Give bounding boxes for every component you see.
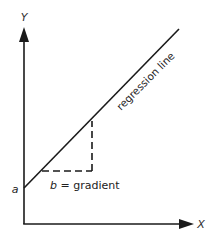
regression-line: [24, 29, 179, 188]
y-axis-label: Y: [21, 11, 29, 24]
intercept-label: a: [12, 183, 19, 196]
x-axis-label: X: [196, 218, 205, 231]
gradient-symbol: b: [50, 179, 57, 192]
regression-diagram: Y X a b = gradient regression line: [0, 0, 212, 242]
y-axis-arrowhead-icon: [19, 27, 29, 42]
gradient-text: = gradient: [57, 179, 120, 192]
gradient-annotation: b = gradient: [50, 179, 120, 192]
x-axis-arrowhead-icon: [179, 219, 194, 229]
regression-line-label: regression line: [114, 49, 177, 112]
